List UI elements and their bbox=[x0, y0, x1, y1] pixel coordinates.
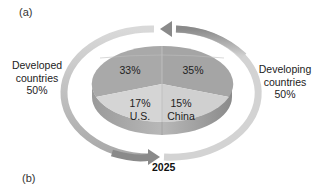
year-label: 2025 bbox=[152, 161, 175, 173]
developed-countries-label: Developed countries 50% bbox=[6, 59, 68, 97]
developing-line1: Developing bbox=[252, 63, 318, 76]
china-percent: 15% bbox=[161, 97, 201, 110]
slice-label-35: 35% bbox=[173, 64, 213, 77]
panel-label-a: (a) bbox=[19, 6, 32, 18]
developed-line1: Developed bbox=[6, 59, 68, 72]
slice-label-33: 33% bbox=[110, 64, 150, 77]
panel-label-b: (b) bbox=[22, 172, 35, 184]
developing-line2: countries bbox=[252, 76, 318, 89]
arrowhead-left-icon bbox=[160, 21, 172, 37]
developing-percent: 50% bbox=[252, 88, 318, 101]
developed-line2: countries bbox=[6, 72, 68, 85]
us-percent: 17% bbox=[124, 97, 156, 110]
slice-label-us: 17% U.S. bbox=[124, 97, 156, 122]
developing-countries-label: Developing countries 50% bbox=[252, 63, 318, 101]
us-name: U.S. bbox=[124, 110, 156, 123]
developed-percent: 50% bbox=[6, 84, 68, 97]
slice-label-china: 15% China bbox=[161, 97, 201, 122]
china-name: China bbox=[161, 110, 201, 123]
